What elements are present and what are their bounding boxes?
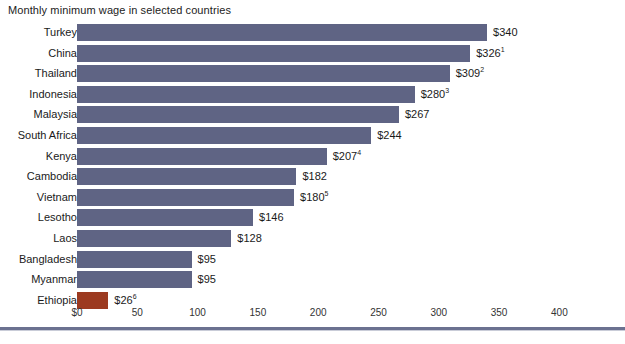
bar-track: $244 [77, 127, 625, 144]
bar-value-text: $182 [302, 170, 326, 182]
x-axis-tick-label: 350 [491, 307, 508, 318]
bar-row: Indonesia$2803 [0, 86, 625, 103]
footnote-marker: 3 [445, 87, 449, 94]
bar-row: Thailand$3092 [0, 65, 625, 82]
bar-category-label: South Africa [0, 128, 77, 143]
bar [77, 189, 294, 206]
bar-row: Turkey$340 [0, 24, 625, 41]
bar-value-text: $340 [493, 26, 517, 38]
bar-track: $267 [77, 106, 625, 123]
bar-track: $95 [77, 251, 625, 268]
bar [77, 106, 399, 123]
bar-row: Myanmar$95 [0, 271, 625, 288]
bar [77, 45, 470, 62]
bar-value-text: $326 [476, 47, 500, 59]
footnote-marker: 4 [357, 149, 361, 156]
bar [77, 230, 231, 247]
x-axis-tick-label: 400 [551, 307, 568, 318]
bar-value-text: $95 [198, 253, 216, 265]
bar-value-label: $340 [493, 25, 517, 40]
bar-row: Vietnam$1805 [0, 189, 625, 206]
bar-category-label: Indonesia [0, 87, 77, 102]
x-axis-tick-label: 100 [189, 307, 206, 318]
bar-row: Laos$128 [0, 230, 625, 247]
bar-value-label: $95 [198, 252, 216, 267]
bar-value-label: $244 [377, 128, 401, 143]
footnote-marker: 1 [501, 46, 505, 53]
bar-value-text: $180 [300, 191, 324, 203]
footnote-marker: 6 [133, 293, 137, 300]
bar-value-text: $128 [237, 232, 261, 244]
bar-value-label: $95 [198, 272, 216, 287]
bar [77, 251, 192, 268]
x-axis-tick-label: 200 [310, 307, 327, 318]
bar-value-text: $207 [333, 150, 357, 162]
bar-row: Kenya$2074 [0, 148, 625, 165]
bar-track: $146 [77, 209, 625, 226]
bar [77, 168, 296, 185]
bar-category-label: Bangladesh [0, 252, 77, 267]
bar-value-text: $309 [456, 67, 480, 79]
bar [77, 65, 450, 82]
axis-baseline-shadow [0, 330, 625, 331]
x-axis-tick-label: 50 [132, 307, 143, 318]
chart-title: Monthly minimum wage in selected countri… [8, 4, 231, 16]
bar-track: $182 [77, 168, 625, 185]
x-axis: $050100150200250300350400 [0, 307, 625, 325]
bar-track: $3092 [77, 65, 625, 82]
bar-track: $2074 [77, 148, 625, 165]
bar [77, 86, 415, 103]
bar-value-label: $2074 [333, 149, 361, 164]
bar-track: $3261 [77, 45, 625, 62]
bar-track: $340 [77, 24, 625, 41]
bar-category-label: China [0, 46, 77, 61]
bar-value-text: $267 [405, 108, 429, 120]
bar-value-label: $3092 [456, 66, 484, 81]
bar-track: $95 [77, 271, 625, 288]
bar-value-label: $128 [237, 231, 261, 246]
bar-category-label: Vietnam [0, 190, 77, 205]
bar-track: $2803 [77, 86, 625, 103]
x-axis-tick-label: 250 [370, 307, 387, 318]
footnote-marker: 5 [325, 190, 329, 197]
bar-row: Lesotho$146 [0, 209, 625, 226]
bar-category-label: Lesotho [0, 210, 77, 225]
x-axis-tick-label: 300 [430, 307, 447, 318]
bar-value-text: $146 [259, 211, 283, 223]
bar [77, 209, 253, 226]
bar-value-text: $280 [421, 88, 445, 100]
bar-row: Bangladesh$95 [0, 251, 625, 268]
chart-figure: Monthly minimum wage in selected countri… [0, 0, 625, 344]
bar [77, 148, 327, 165]
bar-category-label: Kenya [0, 149, 77, 164]
bar [77, 24, 487, 41]
bar-value-label: $266 [114, 293, 136, 308]
bar-value-label: $1805 [300, 190, 328, 205]
bar-category-label: Cambodia [0, 169, 77, 184]
x-axis-tick-label: 150 [250, 307, 267, 318]
bar-category-label: Myanmar [0, 272, 77, 287]
x-axis-tick-label: $0 [71, 307, 82, 318]
bar-value-label: $146 [259, 210, 283, 225]
bar-category-label: Laos [0, 231, 77, 246]
bar-category-label: Turkey [0, 25, 77, 40]
bar-category-label: Malaysia [0, 107, 77, 122]
bar-row: South Africa$244 [0, 127, 625, 144]
bar [77, 127, 371, 144]
bar-value-label: $2803 [421, 87, 449, 102]
bar-value-label: $267 [405, 107, 429, 122]
bar-row: China$3261 [0, 45, 625, 62]
bar-value-text: $95 [198, 273, 216, 285]
footnote-marker: 2 [480, 67, 484, 74]
bar-track: $1805 [77, 189, 625, 206]
bar-value-label: $182 [302, 169, 326, 184]
bar-value-text: $244 [377, 129, 401, 141]
bar-category-label: Ethiopia [0, 293, 77, 308]
bar-row: Cambodia$182 [0, 168, 625, 185]
bar-value-text: $26 [114, 294, 132, 306]
bar-value-label: $3261 [476, 46, 504, 61]
plot-area: Turkey$340China$3261Thailand$3092Indones… [0, 24, 625, 307]
bar-row: Malaysia$267 [0, 106, 625, 123]
bar-track: $128 [77, 230, 625, 247]
bar [77, 271, 192, 288]
